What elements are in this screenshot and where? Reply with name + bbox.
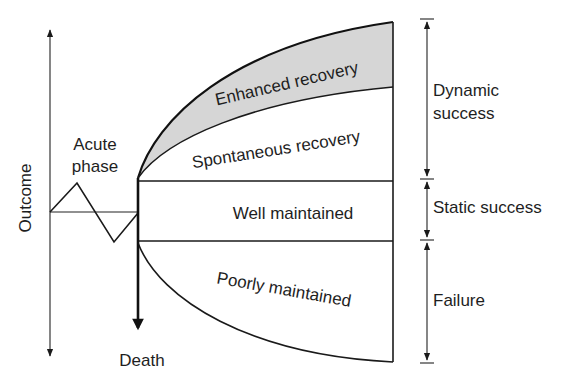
outcome-diagram: Outcome Acute phase Death Enhanced recov… [0,0,584,385]
acute-phase-label-line1: Acute [73,135,116,154]
outcome-brackets [420,19,434,363]
dynamic-success-label-line2: success [433,104,494,123]
poorly-maintained-label: Poorly maintained [215,268,352,310]
static-success-label: Static success [433,198,542,217]
dynamic-success-label-line1: Dynamic [433,81,500,100]
spontaneous-recovery-label: Spontaneous recovery [191,127,362,172]
poorly-maintained-curve [138,243,393,362]
death-label: Death [119,351,164,370]
failure-label: Failure [433,291,485,310]
acute-phase-label-line2: phase [72,157,118,176]
outcome-axis-label: Outcome [16,164,35,233]
well-maintained-label: Well maintained [233,204,354,223]
